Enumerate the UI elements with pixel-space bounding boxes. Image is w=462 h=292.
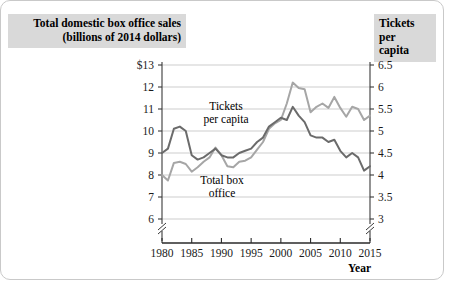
right-axis-tick-5: 5 [378, 125, 384, 137]
axis-break-marks [158, 223, 374, 234]
x-axis-tick-1990: 1990 [210, 247, 233, 259]
x-axis-tick-1980: 1980 [151, 247, 174, 259]
x-axis-title: Year [348, 262, 371, 274]
left-axis-tick-8: 8 [120, 169, 154, 181]
x-axis-tick-1985: 1985 [180, 247, 203, 259]
right-axis-tick-6: 6 [378, 81, 384, 93]
series-label-tickets-line2: per capita [203, 113, 248, 126]
left-axis-tick-10: 10 [120, 125, 154, 137]
figure-container: Total domestic box office sales (billion… [0, 0, 462, 292]
right-axis-line [370, 62, 374, 241]
right-axis-tick-5-5: 5.5 [378, 103, 392, 115]
x-axis-tick-2000: 2000 [269, 247, 292, 259]
left-axis-line [158, 62, 162, 241]
series-lines [162, 83, 370, 181]
series-label-boxoffice-line1: Total box [200, 174, 244, 187]
series-label-boxoffice-line2: office [200, 187, 244, 200]
left-axis-tick-6: 6 [120, 213, 154, 225]
right-axis-tick-4: 4 [378, 169, 384, 181]
right-axis-tick-3-5: 3.5 [378, 191, 392, 203]
x-axis-tick-2010: 2010 [329, 247, 352, 259]
x-axis-tick-2005: 2005 [299, 247, 322, 259]
x-axis-tick-2015: 2015 [359, 247, 382, 259]
x-axis-line [162, 238, 370, 243]
left-axis-tick-13: $13 [120, 59, 154, 71]
x-axis-tick-1995: 1995 [240, 247, 263, 259]
left-axis-tick-7: 7 [120, 191, 154, 203]
series-label-tickets-per-capita: Tickets per capita [203, 100, 248, 126]
series-label-total-box-office: Total box office [200, 174, 244, 200]
right-axis-tick-6-5: 6.5 [378, 59, 392, 71]
gridlines [162, 65, 370, 219]
left-axis-tick-12: 12 [120, 81, 154, 93]
series-label-tickets-line1: Tickets [203, 100, 248, 113]
right-axis-tick-3: 3 [378, 213, 384, 225]
left-axis-tick-9: 9 [120, 147, 154, 159]
right-axis-tick-4-5: 4.5 [378, 147, 392, 159]
left-axis-tick-11: 11 [120, 103, 154, 115]
